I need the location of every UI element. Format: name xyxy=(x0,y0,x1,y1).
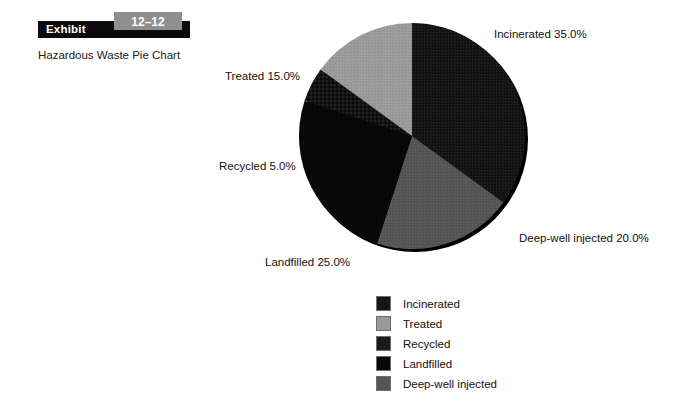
exhibit-header: Exhibit 12–12 xyxy=(38,18,190,35)
legend-swatch-icon xyxy=(376,376,391,391)
exhibit-label: Exhibit xyxy=(46,23,86,35)
legend-item-recycled: Recycled xyxy=(376,334,497,353)
pie-chart-svg xyxy=(298,20,530,254)
pie-chart xyxy=(298,20,530,254)
pie-label-treated: Treated 15.0% xyxy=(225,70,300,82)
pie-label-deep-well-injected: Deep-well injected 20.0% xyxy=(519,232,649,244)
pie-label-recycled: Recycled 5.0% xyxy=(219,160,296,172)
legend-item-landfilled: Landfilled xyxy=(376,354,497,373)
legend-label: Treated xyxy=(403,318,442,330)
legend-label: Recycled xyxy=(403,338,450,350)
legend-label: Incinerated xyxy=(403,298,460,310)
legend-label: Landfilled xyxy=(403,358,452,370)
legend-item-deep-well-injected: Deep-well injected xyxy=(376,374,497,393)
exhibit-number: 12–12 xyxy=(114,13,182,31)
legend-swatch-icon xyxy=(376,316,391,331)
chart-legend: Incinerated Treated Recycled Landfilled … xyxy=(376,294,497,394)
legend-label: Deep-well injected xyxy=(403,378,497,390)
legend-swatch-icon xyxy=(376,296,391,311)
exhibit-bar: Exhibit 12–12 xyxy=(38,18,190,35)
exhibit-subtitle: Hazardous Waste Pie Chart xyxy=(38,48,198,63)
legend-swatch-icon xyxy=(376,356,391,371)
pie-label-landfilled: Landfilled 25.0% xyxy=(265,256,350,268)
legend-item-incinerated: Incinerated xyxy=(376,294,497,313)
legend-item-treated: Treated xyxy=(376,314,497,333)
legend-swatch-icon xyxy=(376,336,391,351)
pie-label-incinerated: Incinerated 35.0% xyxy=(494,28,587,40)
